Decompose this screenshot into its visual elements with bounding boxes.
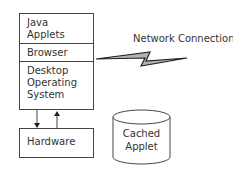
- layer-desktop-os: Desktop Operating System: [20, 62, 93, 110]
- arrow-down-icon: [34, 110, 40, 128]
- lightning-bolt-icon: [96, 52, 187, 66]
- network-connection-label: Network Connection: [133, 33, 233, 44]
- arrow-up-icon: [54, 111, 60, 128]
- software-stack: Java Applets Browser Desktop Operating S…: [19, 13, 94, 110]
- layer-label: Browser: [27, 47, 68, 58]
- layer-browser: Browser: [20, 44, 93, 62]
- layer-label: Java Applets: [27, 17, 65, 40]
- hardware-label: Hardware: [27, 136, 75, 147]
- cached-applet-label: Cached Applet: [113, 127, 170, 153]
- layer-label: Desktop Operating System: [27, 65, 77, 100]
- hardware-box: Hardware: [19, 128, 94, 158]
- layer-java-applets: Java Applets: [20, 14, 93, 44]
